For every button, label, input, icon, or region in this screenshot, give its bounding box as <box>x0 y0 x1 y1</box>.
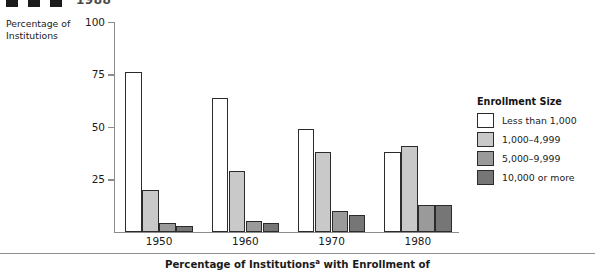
legend-swatch <box>477 132 494 147</box>
legend-item: 10,000 or more <box>477 168 592 187</box>
bar <box>159 223 176 231</box>
legend: Enrollment Size Less than 1,0001,000–4,9… <box>477 96 592 187</box>
legend-item: 5,000–9,999 <box>477 149 592 168</box>
legend-item: Less than 1,000 <box>477 111 592 130</box>
x-axis-label-1980: 1980 <box>405 235 432 247</box>
legend-swatch <box>477 113 494 128</box>
y-tick-label: 50 <box>92 121 105 133</box>
legend-label: 1,000–4,999 <box>502 134 560 145</box>
bar <box>349 215 366 232</box>
legend-label: Less than 1,000 <box>502 115 577 126</box>
legend-swatch <box>477 151 494 166</box>
x-axis-label-1960: 1960 <box>232 235 259 247</box>
figure-header-strip: 1988 <box>0 0 595 9</box>
plot-area: 255075100 1950196019701980 <box>114 22 459 233</box>
bar <box>298 129 315 232</box>
y-tick-label: 75 <box>92 68 105 80</box>
bar <box>263 223 280 231</box>
bar <box>315 152 332 232</box>
y-tick-label: 25 <box>92 173 105 185</box>
bar <box>384 152 401 232</box>
legend-items: Less than 1,0001,000–4,9995,000–9,99910,… <box>477 111 592 187</box>
header-marker-square <box>28 0 40 7</box>
bar <box>401 146 418 232</box>
y-axis-title: Percentage of Institutions <box>6 18 84 41</box>
y-tick-mark <box>108 74 114 75</box>
legend-label: 5,000–9,999 <box>502 153 560 164</box>
header-marker-square <box>6 0 18 7</box>
legend-title: Enrollment Size <box>477 96 592 107</box>
y-axis-line <box>114 22 115 233</box>
legend-item: 1,000–4,999 <box>477 130 592 149</box>
header-cut-text: 1988 <box>76 0 111 7</box>
x-axis-label-1970: 1970 <box>318 235 345 247</box>
bar <box>246 221 263 231</box>
y-tick-mark <box>108 127 114 128</box>
y-tick-label: 100 <box>85 16 105 28</box>
bar-group-1950 <box>125 22 193 232</box>
y-tick-mark <box>108 22 114 23</box>
bar <box>229 171 246 232</box>
bar <box>418 205 435 232</box>
bar <box>212 98 229 232</box>
x-axis-line <box>114 232 459 233</box>
x-axis-label-1950: 1950 <box>146 235 173 247</box>
figure-caption: Percentage of Institutionsa with Enrollm… <box>0 258 595 270</box>
header-marker-square <box>50 0 62 7</box>
bar <box>176 226 193 232</box>
bar-group-1980 <box>384 22 452 232</box>
legend-swatch <box>477 170 494 185</box>
bar <box>332 211 349 232</box>
bar <box>435 205 452 232</box>
bar <box>142 190 159 232</box>
caption-suffix: with Enrollment of <box>320 259 430 270</box>
caption-prefix: Percentage of Institutions <box>165 259 315 270</box>
bar-group-1960 <box>212 22 280 232</box>
legend-label: 10,000 or more <box>502 172 575 183</box>
y-tick-mark <box>108 179 114 180</box>
bar-group-1970 <box>298 22 366 232</box>
bar <box>125 72 142 231</box>
bottom-divider <box>0 253 595 254</box>
